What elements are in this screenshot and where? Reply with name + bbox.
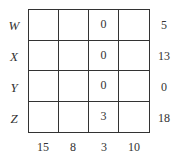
allocation-grid: 0 0 0 3 — [28, 9, 150, 133]
row-total-z: 18 — [153, 111, 175, 126]
grid-cell — [59, 41, 89, 72]
row-label-y: Y — [6, 80, 22, 96]
row-label-x: X — [6, 49, 22, 65]
grid-cell — [29, 10, 59, 41]
grid-cell — [59, 10, 89, 41]
grid-cell: 0 — [89, 10, 119, 41]
column-total-2: 8 — [58, 140, 88, 155]
grid-cell: 0 — [89, 41, 119, 72]
grid-cell — [29, 41, 59, 72]
column-total-1: 15 — [28, 140, 58, 155]
grid-cell — [59, 102, 89, 133]
grid-cell — [119, 102, 149, 133]
column-total-4: 10 — [119, 140, 149, 155]
grid-cell: 0 — [89, 71, 119, 102]
grid-cell — [119, 10, 149, 41]
column-total-3: 3 — [89, 140, 119, 155]
row-total-x: 13 — [153, 49, 175, 64]
grid-cell — [59, 71, 89, 102]
row-label-z: Z — [6, 111, 22, 127]
grid-cell — [29, 102, 59, 133]
grid-cell — [119, 41, 149, 72]
row-total-w: 5 — [153, 18, 175, 33]
row-label-w: W — [6, 18, 22, 34]
row-total-y: 0 — [153, 80, 175, 95]
grid-cell — [119, 71, 149, 102]
grid-cell: 3 — [89, 102, 119, 133]
grid-cell — [29, 71, 59, 102]
